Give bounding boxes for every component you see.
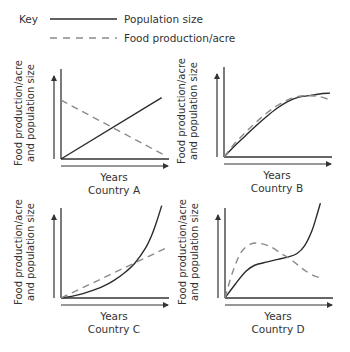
chart-title: Country A bbox=[88, 184, 141, 196]
chart-title: Country B bbox=[251, 182, 303, 194]
food-production-line bbox=[61, 248, 167, 298]
food-production-line bbox=[61, 100, 167, 156]
y-axis-label-line2: and population size bbox=[25, 64, 36, 162]
chart-panel-b: YearsCountry BFood production/acreand po… bbox=[176, 58, 332, 194]
legend-label-food: Food production/acre bbox=[124, 32, 235, 44]
y-axis-label-line1: Food production/acre bbox=[177, 199, 188, 305]
figure: Key Population size Food production/acre… bbox=[0, 0, 350, 352]
legend: Key Population size Food production/acre bbox=[19, 13, 235, 44]
x-axis-label: Years bbox=[99, 310, 128, 322]
chart-title: Country D bbox=[251, 323, 304, 335]
y-axis-label-line2: and population size bbox=[188, 62, 199, 160]
y-axis-label-line2: and population size bbox=[25, 203, 36, 301]
figure-canvas: Key Population size Food production/acre… bbox=[0, 0, 350, 352]
legend-title: Key bbox=[19, 13, 38, 25]
y-axis-label-line2: and population size bbox=[189, 203, 200, 301]
chart-panel-c: YearsCountry CFood production/acreand po… bbox=[13, 199, 169, 335]
chart-panel-d: YearsCountry DFood production/acreand po… bbox=[177, 199, 333, 335]
population-line bbox=[61, 98, 162, 159]
population-line bbox=[61, 206, 162, 298]
food-production-line bbox=[225, 243, 320, 298]
legend-label-population: Population size bbox=[124, 13, 203, 25]
x-axis-label: Years bbox=[99, 171, 128, 183]
y-axis-label-line1: Food production/acre bbox=[13, 60, 24, 166]
y-axis-label-line1: Food production/acre bbox=[176, 58, 187, 164]
x-axis-label: Years bbox=[262, 169, 291, 181]
y-axis-label-line1: Food production/acre bbox=[13, 199, 24, 305]
population-line bbox=[224, 93, 330, 157]
food-production-line bbox=[224, 96, 330, 157]
population-line bbox=[225, 203, 320, 298]
chart-title: Country C bbox=[88, 323, 140, 335]
x-axis-label: Years bbox=[263, 310, 292, 322]
chart-panel-a: YearsCountry AFood production/acreand po… bbox=[13, 60, 169, 196]
